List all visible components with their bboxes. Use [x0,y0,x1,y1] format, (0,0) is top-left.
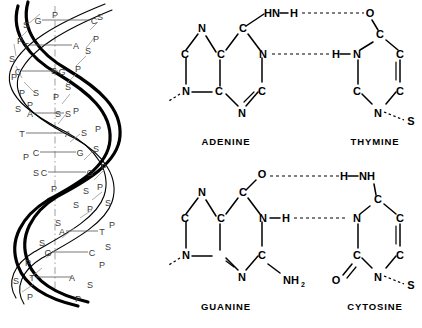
adenine-atom-n9: N [238,107,246,119]
guanine-atoms: N C C C O N H C N N [181,168,290,283]
backbone-phosphate: P [51,184,57,194]
backbone-phosphate: P [27,100,33,110]
thymine-sugar-label: S [407,115,414,127]
backbone-phosphate: P [23,152,29,162]
at-hydrogen-bonds [272,13,364,54]
guanine-atom-n9: N [238,271,246,283]
backbone-sugar: S [83,186,89,196]
backbone-sugar: S [55,218,61,228]
helix-rung-1-left: T [23,41,29,51]
backbone-phosphate: P [11,72,17,82]
backbone-sugar: S [55,109,61,119]
backbone-phosphate: P [87,204,93,214]
backbone-phosphate: P [93,34,99,44]
cytosine-atom-h1: H [340,170,348,182]
backbone-sugar: S [33,168,39,178]
cytosine-atom-o9: O [332,274,341,286]
helix-rung-9-right: A [69,273,75,283]
helix-rung-6-right: G [86,168,93,178]
cytosine-label: CYTOSINE [347,301,403,312]
backbone-phosphate: P [17,36,23,46]
adenine-atoms: N C C C N N C C N [181,22,267,119]
guanine-amino-group: NH 2 [283,274,305,288]
guanine-atom-c4: C [239,186,247,198]
backbone-sugar: S [39,238,45,248]
guanine-atom-n6: N [259,212,267,224]
backbone-sugar: S [85,46,91,56]
backbone-phosphate: P [109,220,115,230]
guanine-atom-c8: C [258,249,266,261]
guanine-amino-subscript: 2 [301,281,305,288]
thymine-atom-o1: O [366,7,375,19]
adenine-atom-n5: N [259,48,267,60]
cytosine-atom-c3: C [374,193,382,205]
adenine-amino-group: HN H [264,7,298,19]
dna-helix-panel: G C T A C G A S T A C G C G A T G C T A [0,0,168,328]
backbone-sugar: S [87,280,93,290]
thymine-atom-c3: C [396,48,404,60]
backbone-phosphate: P [19,88,25,98]
helix-rung-7-right: T [99,227,105,237]
backbone-sugar: S [93,144,99,154]
backbone-phosphate: P [27,292,33,302]
backbone-sugar: S [65,82,71,92]
backbone-phosphate: P [99,260,105,270]
adenine-atom-n6: N [182,85,190,97]
guanine-atom-h7: H [282,212,290,224]
backbone-phosphate: P [101,162,107,172]
thymine-bonds [340,20,404,120]
backbone-phosphate: P [25,258,31,268]
backbone-phosphate: P [97,182,103,192]
helix-rung-3-right: S [65,109,71,119]
thymine-atom-c6: C [353,85,361,97]
adenine-label: ADENINE [201,136,250,147]
adenine-thymine-svg: N C C C N N C C N HN H [168,0,422,152]
backbone-phosphate: P [75,64,81,74]
backbone-phosphate: P [52,10,58,20]
helix-rung-0-left: G [34,16,41,26]
adenine-atom-c3: C [217,48,225,60]
backbone-sugar: S [97,12,103,22]
adenine-amino-h: H [290,7,298,19]
cytosine-atom-c6: C [353,249,361,261]
helix-rung-5-right: G [76,148,83,158]
thymine-atom-n8: N [374,107,382,119]
helix-rung-8-left: G [44,248,51,258]
helix-rung-1-right: A [73,41,79,51]
adenine-atom-n1: N [198,22,206,34]
adenine-atom-c8: C [258,85,266,97]
backbone-phosphate: P [73,106,79,116]
backbone-sugar: S [73,200,79,210]
adenine-atom-c2: C [181,48,189,60]
helix-rung-3-left: A [27,109,33,119]
helix-rung-8-right: C [89,248,96,258]
adenine-atom-c4: C [239,22,247,34]
cytosine-atom-c5: C [396,212,404,224]
thymine-atom-h5: H [332,48,340,60]
guanine-cytosine-svg: N C C C O N H C N N NH 2 [168,163,422,328]
helix-rung-4-right: A [65,129,71,139]
backbone-sugar: S [9,54,15,64]
cytosine-atom-n4: N [353,212,361,224]
backbone-phosphate: P [53,92,59,102]
backbone-sugar: S [23,20,29,30]
thymine-atoms: O C C N H C C N [332,7,404,119]
helix-rung-5-left: C [33,148,40,158]
dna-figure: G C T A C G A S T A C G C G A T G C T A [0,0,422,328]
helix-rung-4-left: T [19,129,25,139]
backbone-sugar: S [15,104,21,114]
thymine-atom-n4: N [353,48,361,60]
backbone-sugar: S [105,242,111,252]
guanine-atom-n10: N [182,249,190,261]
adenine-amino-hn: HN [264,7,280,19]
helix-rung-2-right: G [58,67,65,77]
backbone-sugar: S [81,128,87,138]
helix-rung-7-left: A [59,227,65,237]
backbone-sugar: S [33,88,39,98]
thymine-atom-c7: C [396,85,404,97]
dna-helix-svg: G C T A C G A S T A C G C G A T G C T A [0,0,168,328]
thymine-label: THYMINE [350,136,399,147]
helix-rung-6-left: C [41,168,48,178]
cytosine-atom-c7: C [396,249,404,261]
guanine-amino-nh: NH [283,274,299,286]
